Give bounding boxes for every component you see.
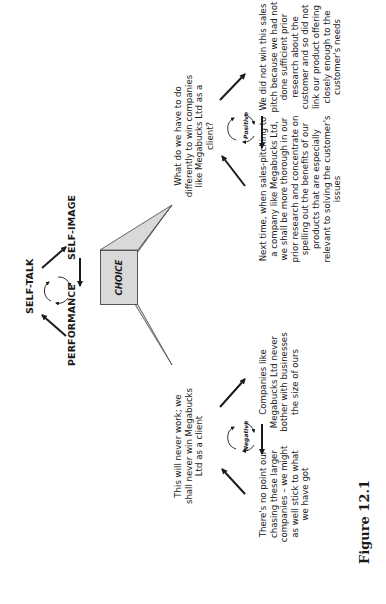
self-image-label: SELF-IMAGE (66, 195, 77, 260)
performance-label: PERFORMANCE (66, 284, 77, 366)
self-talk-label: SELF-TALK (24, 258, 35, 314)
negative-loop-icon (228, 423, 254, 451)
negative-badge: Negative (242, 421, 249, 451)
negative-belief: This will never work; we shall never win… (173, 386, 205, 506)
positive-cycle-arrows (220, 74, 262, 186)
figure-caption: Figure 12.1 (357, 480, 372, 564)
positive-badge: Positive (242, 112, 249, 139)
positive-question: What do we have to do differently to win… (173, 70, 215, 202)
choice-label: CHOICE (114, 260, 124, 296)
negative-cycle-arrows (220, 379, 262, 494)
negative-excuse: Companies like Megabucks Ltd never bothe… (258, 332, 300, 432)
choice-branch-positive (100, 205, 172, 250)
positive-reflection: We did not win this sales pitch because … (258, 0, 343, 117)
diagram-canvas: SELF-TALK SELF-IMAGE PERFORMANCE CHOICE … (0, 0, 386, 604)
negative-conclusion: There's no point our chasing these large… (258, 444, 311, 544)
choice-box: CHOICE (100, 250, 138, 305)
positive-loop-icon (228, 115, 254, 142)
positive-action: Next time, when sales-pitching to a comp… (258, 114, 343, 264)
